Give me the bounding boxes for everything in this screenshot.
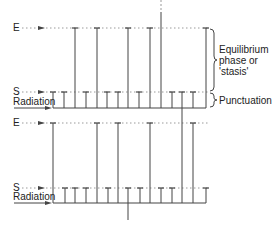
equilibrium-line-1: Equilibrium [219, 44, 268, 55]
lineage-branches [50, 0, 209, 220]
s-arrow-icon [38, 90, 45, 94]
e-label-top: E [13, 23, 20, 33]
level-arrows [14, 26, 52, 205]
e-arrow-icon [38, 121, 45, 125]
radiation-label-top: Radiation [13, 97, 55, 107]
e-label-bottom: E [13, 118, 20, 128]
radiation-label-bottom: Radiation [13, 192, 55, 202]
phase-brackets [210, 29, 217, 107]
e-arrow-icon [38, 26, 45, 30]
equilibrium-annotation: Equilibrium phase or 'stasis' [219, 44, 268, 77]
equilibrium-line-3: 'stasis' [219, 66, 268, 77]
equilibrium-bracket [210, 29, 217, 91]
punctuation-bracket [210, 93, 217, 107]
equilibrium-line-2: phase or [219, 55, 268, 66]
punctuation-label: Punctuation [219, 95, 272, 106]
s-arrow-icon [38, 186, 45, 190]
